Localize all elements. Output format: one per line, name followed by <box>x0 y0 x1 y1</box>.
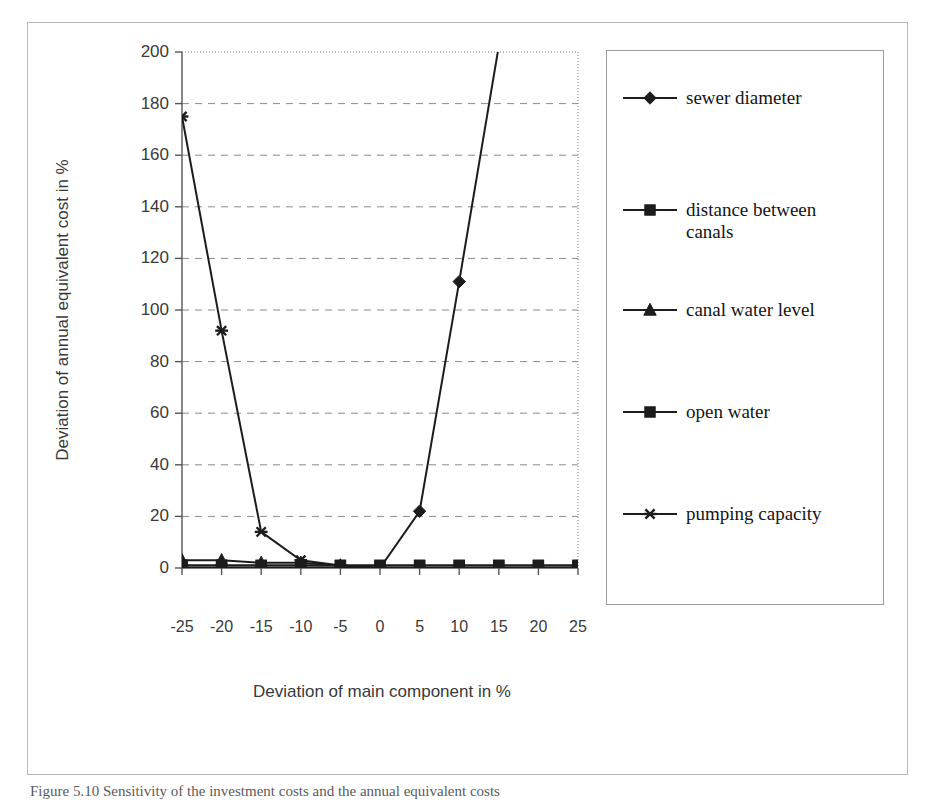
x-tick-label: 10 <box>437 618 481 636</box>
y-tick-label: 20 <box>113 506 169 526</box>
y-tick-label: 100 <box>113 300 169 320</box>
y-tick-label: 160 <box>113 145 169 165</box>
series-pumping-capacity <box>176 112 585 573</box>
x-tick-label: -5 <box>318 618 362 636</box>
gridlines <box>182 104 578 517</box>
y-tick-label: 60 <box>113 403 169 423</box>
triangle-marker-icon <box>621 299 679 321</box>
y-tick-label: 80 <box>113 352 169 372</box>
square-marker-icon <box>621 401 679 423</box>
y-tick-label: 40 <box>113 455 169 475</box>
y-axis-title: Deviation of annual equivalent cost in % <box>50 50 76 570</box>
legend-item[interactable]: open water <box>621 401 873 423</box>
y-tick-label: 0 <box>113 558 169 578</box>
y-tick-label: 120 <box>113 248 169 268</box>
x-tick-label: 0 <box>358 618 402 636</box>
x-tick-label: -10 <box>279 618 323 636</box>
diamond-marker-icon <box>621 87 679 109</box>
x-tick-label: 25 <box>556 618 600 636</box>
y-axis-title-text: Deviation of annual equivalent cost in % <box>53 159 73 460</box>
x-tick-label: -15 <box>239 618 283 636</box>
legend[interactable]: sewer diameterdistance between canalscan… <box>606 50 884 605</box>
legend-item-label: open water <box>686 401 770 423</box>
y-tick-label: 140 <box>113 197 169 217</box>
figure-caption: Figure 5.10 Sensitivity of the investmen… <box>30 783 900 802</box>
x-tick-label: 20 <box>516 618 560 636</box>
y-axis <box>175 52 182 568</box>
asterisk-marker-icon <box>621 503 679 525</box>
x-tick-label: 15 <box>477 618 521 636</box>
legend-item-label: canal water level <box>686 299 815 321</box>
x-axis <box>182 568 578 575</box>
y-tick-label: 180 <box>113 94 169 114</box>
x-axis-title: Deviation of main component in % <box>182 682 582 702</box>
legend-item[interactable]: pumping capacity <box>621 503 873 525</box>
y-tick-label: 200 <box>113 42 169 62</box>
x-tick-label: -20 <box>200 618 244 636</box>
legend-item[interactable]: canal water level <box>621 299 873 321</box>
x-tick-label: 5 <box>398 618 442 636</box>
legend-item-label: pumping capacity <box>686 503 822 525</box>
legend-item[interactable]: sewer diameter <box>621 87 873 109</box>
legend-item-label: sewer diameter <box>686 87 802 109</box>
x-tick-label: -25 <box>160 618 204 636</box>
legend-item-label: distance between canals <box>686 199 816 243</box>
legend-item[interactable]: distance between canals <box>621 199 873 243</box>
square-marker-icon <box>621 199 679 221</box>
